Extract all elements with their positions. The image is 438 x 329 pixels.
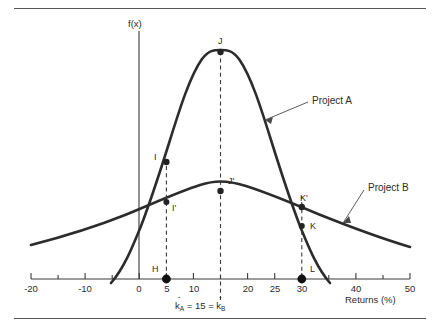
hat-accent-a: ˆ xyxy=(175,296,183,303)
label-point-L: L xyxy=(310,264,315,274)
marker-point-K-prime xyxy=(299,204,305,210)
leader-project-a xyxy=(265,102,308,124)
label-point-K: K xyxy=(310,221,316,231)
x-tick-label-50: 50 xyxy=(398,283,422,294)
x-tick-label-30: 30 xyxy=(290,283,314,294)
mean-equals-value: = 15 = xyxy=(184,300,216,311)
figure-container: f(x) Returns (%) -20 -10 0 5 10 20 25 30… xyxy=(0,0,438,329)
label-point-H: H xyxy=(152,264,159,274)
series-label-project-b: Project B xyxy=(368,182,409,193)
mean-k-b: ˆkB xyxy=(216,300,225,311)
label-point-K-prime: K' xyxy=(300,193,308,203)
x-tick-label--20: -20 xyxy=(17,283,45,294)
label-point-I: I xyxy=(154,152,157,162)
x-tick-label-0: 0 xyxy=(130,283,148,294)
x-tick-label-10: 10 xyxy=(182,283,206,294)
x-tick-label--10: -10 xyxy=(71,283,99,294)
series-label-project-a: Project A xyxy=(312,95,352,106)
chart-canvas xyxy=(0,0,438,329)
hat-accent-b: ˆ xyxy=(216,296,224,303)
label-point-J: J xyxy=(218,36,223,46)
marker-point-K xyxy=(299,223,305,229)
x-axis-title: Returns (%) xyxy=(345,294,396,305)
mean-subscript-a: A xyxy=(180,305,184,312)
leader-project-b xyxy=(343,190,364,223)
marker-point-I xyxy=(163,159,169,165)
mean-subscript-b: B xyxy=(221,305,225,312)
mean-k-a: ˆkA xyxy=(175,300,184,311)
marker-point-I-prime xyxy=(163,199,169,205)
marker-point-J xyxy=(217,49,223,55)
marker-point-J-prime xyxy=(217,188,223,194)
x-tick-label-40: 40 xyxy=(344,283,368,294)
x-tick-label-25: 25 xyxy=(263,283,287,294)
label-point-I-prime: I' xyxy=(172,203,176,213)
y-axis-title: f(x) xyxy=(128,18,142,29)
label-point-J-prime: J' xyxy=(228,176,234,186)
x-tick-label-5: 5 xyxy=(158,283,176,294)
mean-annotation: ˆkA = 15 = ˆkB xyxy=(175,300,225,311)
x-tick-label-20: 20 xyxy=(236,283,260,294)
